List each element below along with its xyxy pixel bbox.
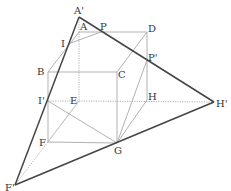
- label-D: D: [148, 23, 156, 34]
- label-F-prime: F': [5, 182, 15, 191]
- hidden-E-H-prime: [79, 101, 214, 102]
- label-F: F: [39, 137, 46, 148]
- edge-D-C: [117, 32, 147, 72]
- label-E: E: [70, 95, 77, 106]
- label-H-prime: H': [216, 98, 227, 109]
- label-A: A: [79, 21, 88, 32]
- point-labels: A' A P D I B C P' I' E H H' F G F': [5, 5, 227, 191]
- label-H: H: [148, 91, 157, 102]
- label-B: B: [37, 66, 44, 77]
- label-C: C: [118, 69, 126, 80]
- hidden-edges: [15, 17, 214, 185]
- label-I-prime: I': [38, 95, 45, 106]
- label-P-prime: P': [148, 52, 157, 63]
- label-P: P: [100, 21, 107, 32]
- label-G: G: [114, 145, 122, 156]
- cube-section-diagram: A' A P D I B C P' I' E H H' F G F': [0, 0, 231, 191]
- segment-I-prime-G: [48, 101, 117, 143]
- section-triangle: [15, 17, 214, 185]
- edge-F-G: [48, 142, 117, 143]
- label-I: I: [61, 38, 65, 49]
- label-A-prime: A': [73, 5, 84, 16]
